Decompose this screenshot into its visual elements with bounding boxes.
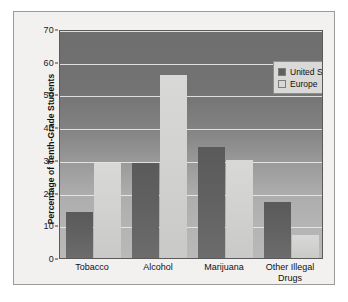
y-tick-label: 70 <box>44 25 54 35</box>
y-tick-mark <box>55 259 58 260</box>
legend-swatch-united-states <box>278 68 286 76</box>
bar-group <box>60 31 126 258</box>
bar-united-states <box>132 163 159 258</box>
x-tick-label: Marijuana <box>191 262 257 273</box>
bar-europe <box>94 163 121 258</box>
y-tick-label: 50 <box>44 90 54 100</box>
y-tick-mark <box>55 128 58 129</box>
x-tick-label: Tobacco <box>59 262 125 273</box>
y-tick-mark <box>55 193 58 194</box>
y-tick-mark <box>55 226 58 227</box>
y-tick-label: 0 <box>49 254 54 264</box>
x-tick-label: Alcohol <box>125 262 191 273</box>
figure-frame: Percentage of Tenth-Grade Students 01020… <box>13 11 335 285</box>
y-tick-label: 30 <box>44 156 54 166</box>
y-tick-label: 60 <box>44 58 54 68</box>
y-tick-mark <box>55 95 58 96</box>
legend-item-europe: Europe <box>278 78 323 89</box>
legend-label-europe: Europe <box>290 79 317 89</box>
y-tick-label: 20 <box>44 189 54 199</box>
bar-united-states <box>198 147 225 258</box>
bar-europe <box>292 235 319 258</box>
x-axis-tick-labels: TobaccoAlcoholMarijuanaOther Illegal Dru… <box>59 262 323 294</box>
legend-label-united-states: United States <box>290 67 323 77</box>
bar-united-states <box>66 212 93 258</box>
y-tick-label: 10 <box>44 221 54 231</box>
y-tick-label: 40 <box>44 123 54 133</box>
y-axis-tick-labels: 010203040506070 <box>28 30 58 259</box>
legend-swatch-europe <box>278 80 286 88</box>
legend-item-united-states: United States <box>278 66 323 77</box>
y-tick-mark <box>55 30 58 31</box>
y-tick-mark <box>55 62 58 63</box>
bar-europe <box>160 75 187 258</box>
y-tick-mark <box>55 160 58 161</box>
plot-area: United States Europe <box>59 30 323 259</box>
x-tick-label: Other Illegal Drugs <box>257 262 323 284</box>
bar-europe <box>226 160 253 258</box>
chart-legend: United States Europe <box>273 61 323 94</box>
bar-group <box>192 31 258 258</box>
bar-group <box>126 31 192 258</box>
bar-united-states <box>264 202 291 258</box>
